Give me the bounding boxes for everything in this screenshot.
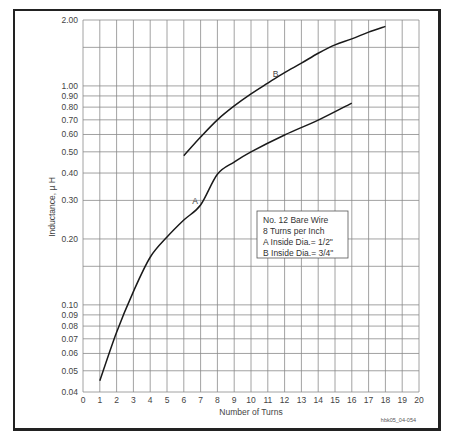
y-tick-label: 0.10 xyxy=(61,300,78,310)
x-tick-label: 9 xyxy=(232,395,237,405)
y-tick-label: 0.90 xyxy=(61,91,78,101)
y-tick-label: 0.60 xyxy=(61,129,78,139)
legend-line-1: No. 12 Bare Wire xyxy=(263,215,328,225)
y-tick-label: 1.00 xyxy=(61,81,78,91)
x-tick-label: 5 xyxy=(165,395,170,405)
x-tick-label: 12 xyxy=(280,395,290,405)
y-tick-label: 0.80 xyxy=(61,102,78,112)
y-tick-label: 0.30 xyxy=(61,195,78,205)
y-tick-label: 0.07 xyxy=(61,334,78,344)
curve-labels: AB xyxy=(192,69,279,206)
y-tick-label: 0.50 xyxy=(61,147,78,157)
inductance-chart: 2.001.000.900.800.700.600.500.400.300.20… xyxy=(0,0,452,441)
grid xyxy=(83,20,419,392)
x-axis-label: Number of Turns xyxy=(219,407,282,417)
x-tick-label: 3 xyxy=(131,395,136,405)
x-tick-label: 13 xyxy=(297,395,307,405)
legend-line-2: 8 Turns per Inch xyxy=(263,226,325,236)
y-tick-label: 0.08 xyxy=(61,321,78,331)
y-axis-label: Inductance, µ H xyxy=(47,177,57,237)
legend-line-4: B Inside Dia.= 3/4" xyxy=(263,248,333,258)
x-tick-label: 18 xyxy=(381,395,391,405)
x-tick-label: 2 xyxy=(114,395,119,405)
x-tick-label: 11 xyxy=(263,395,272,405)
x-tick-label: 15 xyxy=(330,395,340,405)
y-tick-label: 0.06 xyxy=(61,348,78,358)
x-tick-label: 0 xyxy=(81,395,86,405)
x-tick-label: 20 xyxy=(414,395,424,405)
curve-label-b: B xyxy=(273,69,279,79)
x-axis-ticks: 01234567891011121314151617181920 xyxy=(81,395,424,405)
x-tick-label: 8 xyxy=(215,395,220,405)
x-tick-label: 1 xyxy=(97,395,102,405)
legend-box: No. 12 Bare Wire 8 Turns per Inch A Insi… xyxy=(257,211,348,258)
x-tick-label: 10 xyxy=(246,395,256,405)
y-axis-ticks: 2.001.000.900.800.700.600.500.400.300.20… xyxy=(61,15,78,397)
x-tick-label: 14 xyxy=(313,395,323,405)
x-tick-label: 17 xyxy=(364,395,374,405)
x-tick-label: 16 xyxy=(347,395,357,405)
x-tick-label: 7 xyxy=(198,395,203,405)
x-tick-label: 4 xyxy=(148,395,153,405)
y-tick-label: 2.00 xyxy=(61,15,78,25)
x-tick-label: 6 xyxy=(181,395,186,405)
curves xyxy=(100,26,386,380)
figure-code: hbk05_04-054 xyxy=(381,417,416,423)
x-tick-label: 19 xyxy=(397,395,407,405)
y-tick-label: 0.40 xyxy=(61,168,78,178)
y-tick-label: 0.20 xyxy=(61,234,78,244)
y-tick-label: 0.09 xyxy=(61,310,78,320)
legend-line-3: A Inside Dia.= 1/2" xyxy=(263,237,333,247)
y-tick-label: 0.05 xyxy=(61,366,78,376)
y-tick-label: 0.04 xyxy=(61,387,78,397)
y-tick-label: 0.70 xyxy=(61,115,78,125)
curve-label-a: A xyxy=(192,196,198,206)
